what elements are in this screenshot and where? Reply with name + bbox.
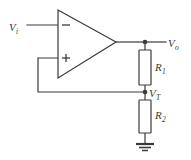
ground-icon bbox=[136, 144, 154, 151]
label-resistor-r2-subscript: 2 bbox=[162, 115, 166, 124]
label-threshold-voltage-subscript: T bbox=[156, 93, 160, 102]
schematic-svg bbox=[0, 0, 191, 160]
label-threshold-voltage-symbol: V bbox=[149, 87, 156, 99]
label-resistor-r1-symbol: R bbox=[155, 61, 162, 73]
resistor-r1-body bbox=[139, 50, 151, 85]
circuit-diagram-canvas: Vi Vo VT R1 R2 bbox=[0, 0, 191, 160]
label-output-voltage-symbol: V bbox=[168, 37, 175, 49]
label-input-voltage-symbol: V bbox=[9, 21, 16, 33]
label-input-voltage: Vi bbox=[9, 18, 18, 34]
label-output-voltage-subscript: o bbox=[175, 43, 179, 52]
label-output-voltage: Vo bbox=[168, 34, 178, 50]
label-threshold-voltage: VT bbox=[149, 84, 160, 100]
output-node-dot bbox=[143, 40, 148, 45]
wire-feedback bbox=[38, 58, 145, 92]
resistor-r2-body bbox=[139, 100, 151, 133]
label-resistor-r2-symbol: R bbox=[155, 109, 162, 121]
threshold-node-dot bbox=[143, 90, 148, 95]
label-resistor-r2: R2 bbox=[155, 106, 165, 122]
opamp-triangle bbox=[58, 10, 116, 78]
label-resistor-r1: R1 bbox=[155, 58, 165, 74]
label-input-voltage-subscript: i bbox=[16, 27, 18, 36]
label-resistor-r1-subscript: 1 bbox=[162, 67, 166, 76]
